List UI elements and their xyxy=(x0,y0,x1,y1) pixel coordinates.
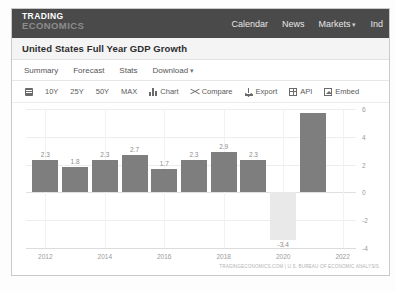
range-max-label: MAX xyxy=(121,87,137,96)
y-axis-tick-label: 4 xyxy=(362,133,366,140)
nav-link-markets[interactable]: Markets▾ xyxy=(318,19,356,29)
page-title: United States Full Year GDP Growth xyxy=(22,43,187,54)
gridline-x xyxy=(343,109,344,248)
chevron-down-icon: ▾ xyxy=(190,67,194,74)
nav-link-indicators[interactable]: Ind xyxy=(370,19,383,29)
y-axis-tick-label: -2 xyxy=(362,217,368,224)
tab-download[interactable]: Download▾ xyxy=(153,66,195,75)
bar-value-label: 2.9 xyxy=(219,143,228,150)
chart-bar[interactable] xyxy=(62,167,88,192)
bar-value-label: 2.3 xyxy=(41,151,50,158)
calendar-icon xyxy=(25,88,33,96)
chart-bar[interactable] xyxy=(211,152,237,192)
bar-value-label: 2.3 xyxy=(189,151,198,158)
x-axis-tick-label: 2012 xyxy=(38,253,52,260)
chart-bar[interactable] xyxy=(240,160,266,192)
nav-link-calendar-label: Calendar xyxy=(231,19,268,29)
api-button[interactable]: API xyxy=(289,87,312,96)
range-50y-button[interactable]: 50Y xyxy=(96,87,109,96)
chart-bar[interactable] xyxy=(122,155,148,193)
range-max-button[interactable]: MAX xyxy=(121,87,137,96)
top-navbar: TRADING ECONOMICS Calendar News Markets▾… xyxy=(12,9,389,38)
x-axis-tick-label: 2022 xyxy=(335,253,349,260)
gridline-y xyxy=(26,192,356,193)
y-axis-tick-label: 6 xyxy=(362,106,366,113)
chart-type-button[interactable]: Chart xyxy=(149,87,178,96)
chart-bar[interactable] xyxy=(270,192,296,239)
nav-link-news-label: News xyxy=(282,19,305,29)
bar-value-label: 1.8 xyxy=(71,158,80,165)
tab-summary[interactable]: Summary xyxy=(24,66,58,75)
chart-bar[interactable] xyxy=(151,169,177,193)
export-label: Export xyxy=(256,87,278,96)
trading-economics-card: TRADING ECONOMICS Calendar News Markets▾… xyxy=(11,8,390,276)
nav-link-indicators-label: Ind xyxy=(370,19,383,29)
calendar-range-button[interactable] xyxy=(25,88,33,96)
chart-toolbar: 10Y 25Y 50Y MAX Chart Compare Export xyxy=(12,81,389,103)
x-axis-tick-label: 2020 xyxy=(276,253,290,260)
bar-value-label: 1.7 xyxy=(160,160,169,167)
embed-label: Embed xyxy=(335,87,359,96)
nav-links: Calendar News Markets▾ Ind xyxy=(231,9,389,38)
chevron-down-icon: ▾ xyxy=(352,21,356,28)
tab-stats[interactable]: Stats xyxy=(119,66,137,75)
nav-link-calendar[interactable]: Calendar xyxy=(231,19,268,29)
x-axis-tick-label: 2016 xyxy=(157,253,171,260)
section-tabs: Summary Forecast Stats Download▾ xyxy=(12,60,389,81)
gridline-y xyxy=(26,109,356,110)
y-axis-tick-label: 2 xyxy=(362,161,366,168)
chart-area: 6420-2-42.31.82.32.71.72.32.92.3-3.4 201… xyxy=(12,103,389,276)
y-axis-tick-label: -4 xyxy=(362,245,368,252)
tab-stats-label: Stats xyxy=(119,66,137,75)
chart-bar[interactable] xyxy=(32,160,58,192)
nav-link-markets-label: Markets xyxy=(318,19,350,29)
screenshot-root: TRADING ECONOMICS Calendar News Markets▾… xyxy=(0,0,395,291)
download-icon xyxy=(245,88,253,96)
range-50y-label: 50Y xyxy=(96,87,109,96)
embed-button[interactable]: Embed xyxy=(324,87,359,96)
bar-value-label: 2.3 xyxy=(249,151,258,158)
range-10y-label: 10Y xyxy=(45,87,58,96)
chart-source-note: TRADINGECONOMICS.COM | U.S. BUREAU OF EC… xyxy=(219,264,379,269)
image-icon xyxy=(324,88,332,96)
tab-forecast-label: Forecast xyxy=(73,66,104,75)
bar-value-label: 2.3 xyxy=(100,151,109,158)
api-label: API xyxy=(300,87,312,96)
bar-value-label: -3.4 xyxy=(278,241,289,248)
x-axis-line xyxy=(26,248,356,249)
chart-plot[interactable]: 6420-2-42.31.82.32.71.72.32.92.3-3.4 xyxy=(26,109,356,248)
tab-download-label: Download xyxy=(153,66,189,75)
chart-bar[interactable] xyxy=(92,160,118,192)
trading-economics-logo[interactable]: TRADING ECONOMICS xyxy=(22,12,84,30)
x-axis-tick-label: 2018 xyxy=(216,253,230,260)
range-10y-button[interactable]: 10Y xyxy=(45,87,58,96)
compare-button[interactable]: Compare xyxy=(191,87,233,96)
logo-line-2: ECONOMICS xyxy=(22,21,84,31)
tab-forecast[interactable]: Forecast xyxy=(73,66,104,75)
bar-chart-icon xyxy=(149,88,157,96)
range-25y-label: 25Y xyxy=(70,87,83,96)
compare-label: Compare xyxy=(202,87,233,96)
chart-type-label: Chart xyxy=(160,87,178,96)
tab-summary-label: Summary xyxy=(24,66,58,75)
chart-bar[interactable] xyxy=(300,113,326,192)
gridline-y xyxy=(26,220,356,221)
y-axis-tick-label: 0 xyxy=(362,189,366,196)
nav-link-news[interactable]: News xyxy=(282,19,305,29)
chart-bar[interactable] xyxy=(181,160,207,192)
compare-icon xyxy=(191,88,199,96)
export-button[interactable]: Export xyxy=(245,87,278,96)
range-25y-button[interactable]: 25Y xyxy=(70,87,83,96)
page-title-bar: United States Full Year GDP Growth xyxy=(12,38,389,60)
x-axis-tick-label: 2014 xyxy=(98,253,112,260)
grid-icon xyxy=(289,88,297,96)
bar-value-label: 2.7 xyxy=(130,146,139,153)
